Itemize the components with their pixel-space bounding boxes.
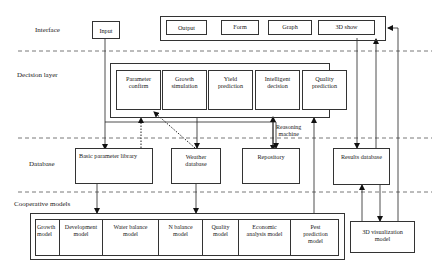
reasoning-machine-label: Reasoning machine [276,124,301,138]
module-label: decision [256,82,299,89]
repository-box: Repository [242,148,300,184]
module-label: Intelligent [256,75,299,82]
module-label: Yield [209,75,252,82]
model-water-balance: Water balance model [103,220,159,255]
repository-label: Repository [257,153,284,160]
module-growth-simulation: Growth simulation [162,70,207,110]
3d-show-label: 3D show [335,23,357,30]
module-label: prediction [303,82,346,89]
model-pest-prediction: Pest prediction model [291,220,340,255]
model-label: model [37,231,59,238]
module-label: Quality [303,75,346,82]
model-label: model [103,231,158,238]
module-label: Parameter [117,75,160,82]
model-label: Pest [291,224,340,231]
output-box: Output [166,20,207,35]
model-label: model [291,238,340,245]
module-parameter-confirm: Parameter confirm [116,70,161,110]
model-label: model [159,231,202,238]
input-box: Input [92,21,120,39]
model-development: Development model [60,220,103,255]
basic-parameter-library-box: Basic parameter library [75,148,153,184]
input-label: Input [99,27,112,34]
form-box: Form [221,20,259,35]
model-label: N balance [159,224,202,231]
module-yield-prediction: Yield prediction [208,70,253,110]
module-label: simulation [163,82,206,89]
3d-show-box: 3D show [318,20,375,35]
model-label: analysis model [239,231,290,238]
model-label: Economic [239,224,290,231]
module-quality-prediction: Quality prediction [302,70,347,110]
basic-parameter-library-label: Basic parameter library [79,152,137,159]
results-database-label: Results database [341,153,382,160]
layer-label-cooperative: Cooperative models [14,200,70,208]
model-label: model [203,231,238,238]
graph-label: Graph [282,23,297,30]
model-label: Quality [203,224,238,231]
weather-label: Weather [172,153,220,160]
reasoning-label: machine [276,131,301,138]
layer-label-decision: Decision layer [17,71,58,79]
model-label: model [60,231,102,238]
reasoning-label: Reasoning [276,124,301,131]
weather-database-box: Weather database [171,148,221,184]
3d-visualization-model-box: 3D visualization model [350,221,415,253]
model-n-balance: N balance model [159,220,203,255]
model-label: prediction [291,231,340,238]
layer-label-interface: Interface [35,26,60,34]
model-quality: Quality model [203,220,239,255]
results-database-box: Results database [333,148,390,185]
model-growth: Growth model [36,220,60,255]
model-label: Development [60,224,102,231]
cooperative-models-table: Growth model Development model Water bal… [35,219,339,256]
module-intelligent-decision: Intelligent decision [255,70,300,110]
graph-box: Graph [268,20,312,35]
model-label: Growth [37,224,59,231]
viz-label: 3D visualization [351,228,414,235]
layer-label-database: Database [29,160,55,168]
weather-label: database [172,160,220,167]
model-economic-analysis: Economic analysis model [239,220,291,255]
module-label: Growth [163,75,206,82]
module-label: prediction [209,82,252,89]
viz-label: model [351,235,414,242]
output-label: Output [178,24,195,31]
model-label: Water balance [103,224,158,231]
form-label: Form [233,23,246,30]
module-label: confirm [117,82,160,89]
